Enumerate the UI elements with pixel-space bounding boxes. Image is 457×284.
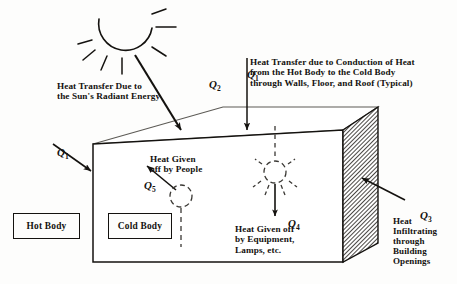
symbol-q2-letter: Q: [209, 78, 217, 90]
symbol-q5-subscript: 5: [152, 185, 156, 194]
symbol-q2-subscript: 2: [217, 84, 221, 93]
symbol-q4: Q4: [277, 205, 300, 244]
caption-sun-radiant-energy: Heat Transfer Due to the Sun's Radiant E…: [57, 81, 160, 102]
symbol-q5: Q5: [133, 167, 156, 206]
symbol-q1-top: Q1: [236, 56, 259, 95]
heat-transfer-diagram: Heat Transfer Due to the Sun's Radiant E…: [0, 0, 457, 284]
hatched-right-wall: [343, 107, 378, 262]
symbol-q1-left: Q1: [46, 134, 69, 173]
caption-conduction: Heat Transfer due to Conduction of Heat …: [250, 57, 415, 88]
symbol-q3-letter: Q: [420, 209, 428, 221]
symbol-q1-top-letter: Q: [247, 68, 255, 80]
symbol-q5-letter: Q: [144, 179, 152, 191]
symbol-q1-top-subscript: 1: [255, 74, 259, 83]
sun-icon: [78, 9, 176, 74]
symbol-q3-subscript: 3: [428, 215, 432, 224]
legend-box-hot-body: Hot Body: [13, 213, 80, 239]
symbol-q1-left-subscript: 1: [65, 152, 69, 161]
symbol-q1-left-letter: Q: [57, 146, 65, 158]
symbol-q4-subscript: 4: [296, 223, 300, 232]
caption-heat-from-people: Heat Given off by People: [150, 154, 202, 175]
legend-box-cold-body: Cold Body: [108, 213, 172, 239]
symbol-q3: Q3: [409, 197, 432, 236]
symbol-q2: Q2: [198, 66, 221, 105]
symbol-q4-letter: Q: [288, 217, 296, 229]
